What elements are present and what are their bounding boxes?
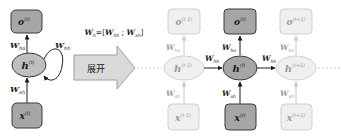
- folded-self-loop-arrow: [44, 49, 63, 80]
- hidden-node-t-minus-1: [164, 56, 204, 80]
- hidden-node-t-plus-1: [276, 56, 316, 80]
- step-t-plus-1: o(t+1) Who h(t+1) Wxh x(t+1): [276, 9, 316, 130]
- rnn-unfold-diagram: o(t) Who h(t) Whh Wxh x(t): [0, 0, 341, 140]
- unroll-arrow-label: 展开: [87, 64, 105, 74]
- folded-w-ho-label: Who: [10, 40, 25, 51]
- w-ho-label-t-minus-1: Who: [166, 43, 180, 53]
- folded-w-xh-label: Wxh: [10, 84, 25, 95]
- folded-output-superscript: (t): [24, 16, 30, 22]
- folded-rnn: o(t) Who h(t) Whh Wxh x(t): [10, 10, 70, 128]
- folded-input-node: x(t): [12, 103, 42, 128]
- w-hh-label-t: Whh: [205, 54, 219, 64]
- step-t: o(t) Who h(t) Wxh x(t): [222, 9, 257, 130]
- hidden-node-t: [223, 56, 257, 80]
- w-ho-label-t-plus-1: Who: [280, 43, 294, 53]
- w-ho-label-t: Who: [222, 43, 236, 53]
- w-xh-label-t-minus-1: Wxh: [166, 89, 180, 99]
- w-xh-label-t-plus-1: Wxh: [280, 89, 294, 99]
- w-hh-label-t-plus-1: Whh: [262, 54, 276, 64]
- step-t-minus-1: o(t-1) Who h(t-1) Wxh x(t-1): [164, 9, 204, 130]
- unroll-arrow: 展开: [74, 46, 135, 89]
- folded-w-hh-label: Whh: [55, 40, 70, 51]
- folded-hidden-node: h(t): [12, 53, 46, 77]
- w-xh-label-t: Wxh: [222, 89, 236, 99]
- folded-output-node: o(t): [11, 10, 42, 33]
- weight-concat-formula: Wh=[Whh ; Wxh]: [85, 28, 144, 38]
